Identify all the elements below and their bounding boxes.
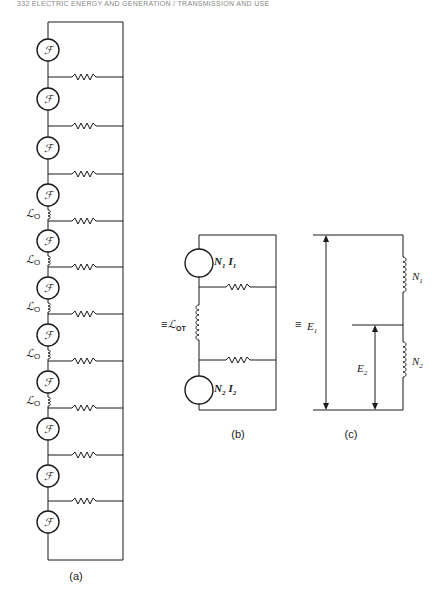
resistor (72, 218, 96, 224)
generator-symbol: ℱ (44, 282, 55, 295)
resistor (72, 171, 96, 177)
e2-label: E2 (356, 362, 368, 377)
panel-a-caption: (a) (69, 570, 82, 582)
n2-label: N2 (411, 355, 423, 370)
inductor-lo (48, 350, 50, 359)
generator-symbol: ℱ (44, 470, 55, 483)
generator-n1i1 (185, 249, 213, 277)
equivalence-symbol-c: ≡ (295, 318, 301, 330)
resistor (72, 358, 96, 364)
generator-symbol: ℱ (44, 189, 55, 202)
inductor-lo-label: ℒO (26, 253, 40, 267)
resistor (72, 405, 96, 411)
resistor (72, 264, 96, 270)
resistor (72, 311, 96, 317)
inductor-lot-label: ℒOT (168, 318, 186, 332)
inductor-lo-label: ℒO (26, 394, 40, 408)
e1-label: E1 (306, 320, 317, 335)
n1-label: N1 (411, 270, 423, 285)
gen2-label: N2I2 (213, 382, 237, 397)
equivalence-symbol-b: ≡ (161, 318, 167, 330)
generator-symbol: ℱ (44, 423, 55, 436)
resistor (72, 498, 96, 504)
inductor-lo (48, 256, 50, 265)
generator-symbol: ℱ (44, 44, 55, 57)
generator-symbol: ℱ (44, 376, 55, 389)
generator-n2i2 (185, 376, 213, 404)
coil-n2 (403, 342, 406, 377)
resistor (72, 74, 96, 80)
coil-n1 (403, 257, 406, 292)
gen1-label: N1I1 (213, 255, 236, 270)
inductor-lot (196, 305, 199, 340)
panel-c-circuit (313, 235, 406, 410)
generator-symbol: ℱ (44, 142, 55, 155)
inductor-lo-label: ℒO (26, 207, 40, 221)
inductor-lo-label: ℒO (26, 300, 40, 314)
inductor-lo-label: ℒO (26, 347, 40, 361)
resistor (72, 123, 96, 129)
resistor (72, 452, 96, 458)
panel-c-caption: (c) (345, 428, 358, 440)
generator-symbol: ℱ (44, 93, 55, 106)
panel-b-caption: (b) (231, 428, 244, 440)
circuit-diagram: ℱℱℱℱℱℱℱℱℱℱℱ ℒOℒOℒOℒOℒO (a) ≡ N1I1 N2I2 ℒ… (0, 0, 444, 597)
inductor-lo (48, 303, 50, 312)
generator-symbol: ℱ (44, 516, 55, 529)
generator-symbol: ℱ (44, 329, 55, 342)
inductor-lo (48, 397, 50, 406)
generator-symbol: ℱ (44, 235, 55, 248)
inductor-lo (48, 210, 50, 219)
